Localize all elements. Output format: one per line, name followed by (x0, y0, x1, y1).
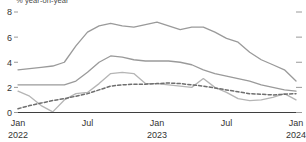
y-tick-label: 2 (7, 83, 12, 93)
chart-plot-area: 02468 Jan2022JulJan2023JulJan2024 (0, 0, 306, 142)
y-tick-label: 4 (7, 58, 12, 68)
x-tick-sublabel: 2023 (147, 130, 167, 140)
x-tick-label: Jul (221, 118, 233, 128)
line-chart: % year-on-year 02468 Jan2022JulJan2023Ju… (0, 0, 306, 142)
x-tick-label: Jan (150, 118, 165, 128)
x-axis-labels: Jan2022JulJan2023JulJan2024 (8, 118, 306, 140)
x-tick-label: Jan (289, 118, 304, 128)
x-tick-label: Jan (11, 118, 26, 128)
right-axis-ticks (296, 12, 302, 113)
chart-series-series-2-middle (18, 56, 296, 91)
x-tick-label: Jul (82, 118, 94, 128)
y-tick-label: 8 (7, 7, 12, 17)
chart-series-series-3-lower (18, 72, 296, 112)
series-group (18, 22, 296, 112)
y-tick-label: 0 (7, 108, 12, 118)
x-tick-sublabel: 2022 (8, 130, 28, 140)
y-axis-ticks: 02468 (7, 7, 18, 118)
y-tick-label: 6 (7, 33, 12, 43)
chart-series-series-1-upper (18, 22, 296, 81)
x-tick-sublabel: 2024 (286, 130, 306, 140)
